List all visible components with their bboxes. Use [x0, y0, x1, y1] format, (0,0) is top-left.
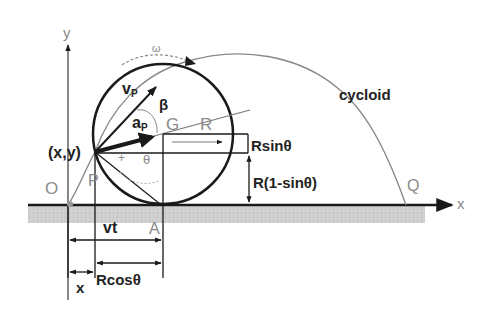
r-one-minus-sin-label: R(1-sinθ)	[253, 174, 317, 191]
vt-label: vt	[103, 219, 118, 236]
point-a-label: A	[149, 220, 160, 237]
omega-arrowhead	[185, 56, 196, 66]
point-q-label: Q	[407, 177, 419, 194]
x-axis-label: x	[457, 195, 465, 212]
acceleration-label: aP	[132, 114, 148, 133]
acceleration-vector	[95, 137, 152, 152]
origin-label: O	[45, 179, 58, 198]
x-dim-label: x	[76, 279, 85, 296]
ground-strip	[28, 206, 425, 223]
center-g-label: G	[166, 115, 179, 134]
theta-marker: +	[118, 151, 125, 165]
beta-label: β	[159, 96, 168, 113]
radius-label: R	[200, 115, 212, 134]
y-axis-label: y	[63, 24, 71, 41]
point-p-label: P	[88, 172, 99, 189]
theta-label: θ	[143, 152, 150, 167]
origin-point	[67, 201, 73, 207]
rcos-label: Rcosθ	[96, 271, 141, 288]
cycloid-label: cycloid	[339, 86, 391, 103]
chord-p-a	[95, 152, 160, 204]
point-xy-label: (x,y)	[48, 144, 81, 161]
rsin-label: Rsinθ	[251, 137, 292, 154]
theta-arc	[120, 172, 160, 184]
velocity-label: vP	[122, 80, 138, 99]
omega-label: ω	[152, 42, 161, 54]
cycloid-diagram: x y O cycloid Q ω θ + β vP aP G R	[0, 0, 485, 311]
cycloid-curve	[68, 54, 406, 205]
